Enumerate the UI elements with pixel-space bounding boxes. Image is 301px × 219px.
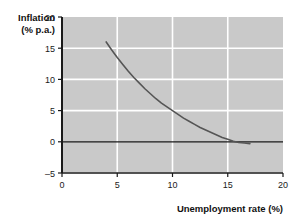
- x-tick-label: 10: [167, 180, 177, 190]
- phillips-curve-chart: 05101520 –505101520 Unemployment rate (%…: [0, 0, 301, 219]
- y-tick-label: –5: [45, 169, 55, 179]
- y-axis-tick-labels: –505101520: [45, 13, 55, 179]
- x-tick-label: 5: [115, 180, 120, 190]
- y-tick-label: 0: [50, 137, 55, 147]
- x-tick-label: 20: [278, 180, 288, 190]
- chart-canvas: 05101520 –505101520 Unemployment rate (%…: [0, 0, 301, 219]
- y-tick-label: 15: [45, 44, 55, 54]
- x-tick-label: 0: [59, 180, 64, 190]
- x-tick-label: 15: [223, 180, 233, 190]
- y-axis-title-line2: (% p.a.): [21, 24, 55, 35]
- x-axis-tick-labels: 05101520: [59, 180, 288, 190]
- x-axis-title: Unemployment rate (%): [177, 203, 283, 214]
- y-axis-title-line1: Inflation: [18, 12, 55, 23]
- y-tick-label: 10: [45, 75, 55, 85]
- y-tick-label: 5: [50, 106, 55, 116]
